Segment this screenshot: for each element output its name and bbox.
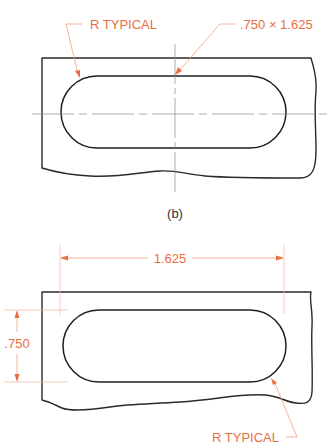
- arrow-width-top: [15, 310, 20, 318]
- arrow-radius-bottom: [271, 378, 277, 385]
- slot-dimensioning-diagram: R TYPICAL .750 × 1.625 (b) 1.625 .750 R: [0, 0, 328, 444]
- slot-outline-bottom: [63, 310, 286, 382]
- arrow-length-right: [276, 256, 284, 261]
- arrow-width-bottom: [15, 374, 20, 382]
- figure-caption: (b): [167, 206, 183, 221]
- slot-outline-top: [61, 76, 286, 148]
- arrow-length-left: [60, 256, 68, 261]
- figure-bottom: 1.625 .750 R TYPICAL: [4, 245, 312, 444]
- slot-size-note: .750 × 1.625: [240, 17, 313, 32]
- width-dimension-value: .750: [4, 336, 29, 351]
- arrow-radius-top: [75, 70, 80, 78]
- figure-top: R TYPICAL .750 × 1.625 (b): [32, 17, 328, 221]
- length-dimension-value: 1.625: [154, 251, 187, 266]
- leader-radius-bottom: [274, 381, 297, 437]
- radius-note-bottom: R TYPICAL: [212, 430, 279, 444]
- leader-slot-size: [179, 24, 236, 71]
- radius-note-top: R TYPICAL: [90, 17, 157, 32]
- leader-radius-top: [66, 24, 82, 74]
